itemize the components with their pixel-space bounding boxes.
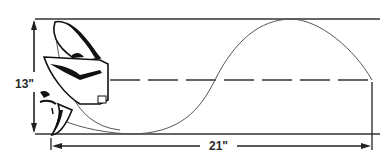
propeller-illustration <box>40 22 108 135</box>
propeller-pitch-diagram <box>0 0 389 160</box>
helix-path-lower <box>62 120 135 134</box>
diameter-label: 13" <box>14 77 35 91</box>
pitch-label: 21" <box>205 139 232 153</box>
